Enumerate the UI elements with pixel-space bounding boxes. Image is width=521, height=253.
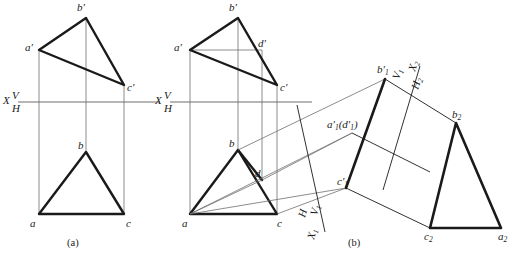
label-x2-aux: X2 xyxy=(405,59,422,74)
label-b-b: b xyxy=(229,137,235,149)
technical-drawing-figure: b′ a′ c′ b a c X V H (a) xyxy=(0,0,521,253)
label-x1-aux: X1 xyxy=(304,227,321,242)
label-a2: a2 xyxy=(498,230,508,244)
label-x-axis-b: X xyxy=(154,94,163,106)
label-d-b: d xyxy=(255,167,261,179)
caption-b: (b) xyxy=(348,237,361,249)
view-b-true-shape-group: b2 c2 a2 (b) xyxy=(348,108,508,249)
triangle-b-a-prime-b-prime-c-prime xyxy=(190,18,277,85)
label-v-plane-a: V xyxy=(12,89,20,101)
label-v-plane-b: V xyxy=(164,89,172,101)
label-a-b: a xyxy=(182,217,188,229)
label-c-a: c xyxy=(126,217,131,229)
view-b-frontal-triangle xyxy=(190,18,277,85)
label-c1-prime: c′1 xyxy=(337,175,348,189)
label-a1-d1-prime: a′1(d′1) xyxy=(327,118,358,132)
auxiliary-frame-lines xyxy=(346,79,456,228)
label-b2: b2 xyxy=(452,108,462,122)
axis-labels-upper-right: V1 X2 H2 xyxy=(389,59,425,92)
label-a-a: a xyxy=(30,217,36,229)
label-b-prime-b: b′ xyxy=(229,1,238,13)
view-a-horizontal-triangle xyxy=(39,152,124,214)
label-a-prime-b: a′ xyxy=(174,41,183,53)
aux-frame-bottom xyxy=(346,188,430,228)
label-h-plane-a: H xyxy=(11,102,21,114)
axis-labels-lower-left: H V1 X1 xyxy=(295,203,324,242)
label-c-prime-a: c′ xyxy=(127,81,135,93)
triangle-a-prime-b-prime-c-prime xyxy=(39,18,124,85)
label-h-plane-b: H xyxy=(163,102,173,114)
label-v1-aux2: V1 xyxy=(389,67,406,81)
label-c-prime-b: c′ xyxy=(280,81,288,93)
projector-bundle-3 xyxy=(262,133,352,180)
label-c2: c2 xyxy=(424,230,433,244)
label-b1-prime: b′1 xyxy=(377,63,389,77)
view-a-projection-lines xyxy=(39,18,124,214)
label-x-axis-a: X xyxy=(2,94,11,106)
view-a-group: b′ a′ c′ b a c X V H (a) xyxy=(2,1,160,249)
true-shape-triangle xyxy=(430,123,501,228)
label-a-prime-a: a′ xyxy=(25,41,34,53)
auxiliary-projection-bundle xyxy=(190,79,385,214)
caption-a: (a) xyxy=(67,237,79,249)
label-b-a: b xyxy=(78,139,84,151)
view-a-frontal-triangle xyxy=(39,18,124,85)
triangle-a2-b2-c2 xyxy=(430,123,501,228)
label-c-b: c xyxy=(277,217,282,229)
label-b-prime-a: b′ xyxy=(77,1,86,13)
label-h2-aux: H2 xyxy=(408,76,425,93)
view-b-horizontal-triangle xyxy=(190,150,277,214)
view-b-front-group: b′ a′ c′ d′ b a c d X V H xyxy=(154,1,312,229)
triangle-a-b-c xyxy=(39,152,124,214)
triangle-b-a-b-c xyxy=(190,150,277,214)
aux-frame-mid xyxy=(352,133,430,172)
label-d-prime-b: d′ xyxy=(258,37,267,49)
descriptive-geometry-svg: b′ a′ c′ b a c X V H (a) xyxy=(0,0,521,253)
